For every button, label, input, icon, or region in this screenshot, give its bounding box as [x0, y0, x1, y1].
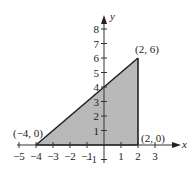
point-label-neg4-0: (−4, 0) — [13, 128, 43, 139]
y-tick-label: 1 — [94, 126, 100, 137]
y-tick-label: 8 — [94, 24, 100, 35]
x-tick-label: 3 — [152, 151, 158, 162]
y-tick-label: 5 — [94, 68, 100, 79]
x-tick-label: −2 — [64, 151, 76, 162]
point-label-2-0: (2, 0) — [141, 133, 165, 144]
x-axis-label: x — [182, 139, 187, 150]
y-neg-tick-label: −1 — [86, 155, 97, 165]
x-tick-label: −4 — [30, 151, 42, 162]
y-tick-label: 7 — [94, 39, 100, 50]
x-axis-arrow-icon — [172, 142, 181, 148]
x-tick-label: 2 — [135, 151, 141, 162]
x-tick-label: −3 — [47, 151, 59, 162]
y-axis-label: y — [110, 11, 115, 22]
y-tick-label: 2 — [94, 111, 100, 122]
x-tick-label: −5 — [13, 151, 25, 162]
y-axis-arrow-icon — [101, 15, 107, 24]
point-label-2-6: (2, 6) — [135, 44, 159, 55]
y-tick-label: 6 — [94, 53, 100, 64]
x-tick-label: 1 — [118, 151, 124, 162]
y-tick-label: 4 — [94, 82, 100, 93]
y-tick-label: 3 — [94, 97, 100, 108]
